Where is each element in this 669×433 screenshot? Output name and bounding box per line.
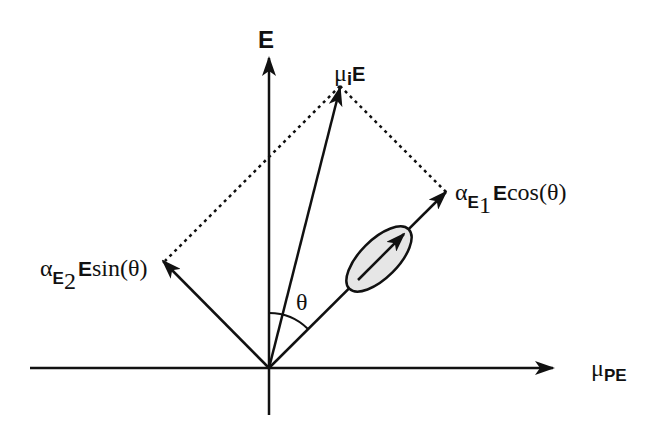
horizontal-axis-label: μPE: [591, 355, 627, 385]
angle-arc: [269, 313, 308, 329]
vertical-axis-label: E: [258, 26, 274, 53]
dotted-line-right: [340, 86, 446, 192]
dipole-diagram: E μiE αE1Ecos(θ) αE2Esin(θ) θ μPE: [0, 0, 669, 433]
angle-label: θ: [296, 289, 308, 315]
resultant-label: μiE: [334, 60, 365, 89]
component-2-vector: [163, 261, 269, 368]
component-1-label: αE1Ecos(θ): [455, 179, 566, 218]
component-2-label: αE2Esin(θ): [40, 255, 147, 294]
dotted-line-left: [165, 86, 340, 261]
